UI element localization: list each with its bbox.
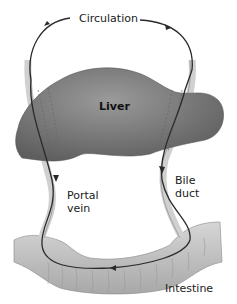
label-liver: Liver	[99, 100, 130, 113]
label-intestine: Intestine	[165, 282, 213, 295]
diagram-graphic	[0, 0, 237, 304]
label-bile-duct-1: Bile	[175, 174, 195, 187]
label-portal-vein-2: vein	[67, 202, 90, 215]
label-bile-duct-2: duct	[175, 187, 199, 200]
label-circulation: Circulation	[79, 12, 138, 25]
label-portal-vein-1: Portal	[67, 189, 99, 202]
enterohepatic-diagram: Circulation Liver Bile duct Portal vein …	[0, 0, 237, 304]
